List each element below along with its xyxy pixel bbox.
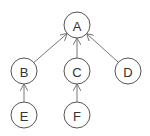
edge-b-to-a — [34, 34, 67, 63]
node-label: D — [123, 65, 132, 80]
node-d: D — [115, 58, 141, 84]
arrow-icon — [34, 34, 67, 63]
node-label: B — [20, 65, 29, 80]
node-b: B — [11, 58, 37, 84]
node-label: E — [20, 109, 29, 124]
node-c: C — [64, 58, 90, 84]
node-label: F — [73, 109, 81, 124]
tree-diagram: ABCDEF — [0, 0, 150, 136]
edge-d-to-a — [87, 34, 119, 63]
node-label: A — [73, 19, 82, 34]
node-a: A — [64, 12, 90, 38]
arrow-icon — [87, 34, 119, 63]
node-label: C — [72, 65, 81, 80]
node-e: E — [11, 102, 37, 128]
node-f: F — [64, 102, 90, 128]
